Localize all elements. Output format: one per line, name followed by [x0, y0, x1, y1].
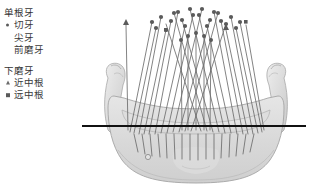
dot-marker-icon — [216, 11, 220, 15]
no-marker-icon — [4, 44, 13, 56]
dot-marker-icon — [229, 15, 233, 19]
triangle-marker-icon — [223, 24, 229, 30]
dot-marker-icon — [150, 20, 154, 24]
dot-marker-icon — [208, 18, 212, 22]
square-marker-icon — [244, 20, 248, 24]
legend-item-label: 远中根 — [14, 89, 44, 102]
dot-marker-icon — [188, 7, 192, 11]
dot-marker-icon — [180, 18, 184, 22]
mental-foramen — [145, 154, 150, 159]
dot-marker-icon — [169, 19, 173, 23]
legend-item-label: 切牙 — [14, 19, 34, 32]
dot-marker-icon — [194, 31, 198, 35]
dot-marker-icon — [202, 34, 206, 38]
dot-marker-icon — [191, 13, 195, 17]
dot-marker-icon — [219, 19, 223, 23]
dot-marker-icon — [238, 20, 242, 24]
root-axis-end-markers — [123, 7, 248, 42]
legend-item-label: 前磨牙 — [14, 44, 44, 57]
dot-marker-icon — [197, 13, 201, 17]
triangle-marker-icon — [4, 77, 13, 89]
dot-marker-icon — [212, 10, 216, 14]
dot-marker-icon — [179, 38, 183, 42]
dot-marker-icon — [176, 10, 180, 14]
dot-marker-icon — [159, 15, 163, 19]
dot-marker-icon — [4, 19, 13, 31]
dot-marker-icon — [205, 24, 209, 28]
dot-marker-icon — [186, 34, 190, 38]
triangle-marker-icon — [123, 19, 129, 25]
square-marker-icon — [164, 28, 168, 32]
no-marker-icon — [4, 32, 13, 44]
dot-marker-icon — [209, 38, 213, 42]
dot-marker-icon — [172, 11, 176, 15]
dot-marker-icon — [200, 7, 204, 11]
mandible-illustration — [78, 0, 314, 191]
dot-marker-icon — [154, 26, 158, 30]
figure-root: 单根牙 切牙 尖牙 前磨牙 下磨牙 近中根 远中根 — [0, 0, 314, 191]
dot-marker-icon — [183, 24, 187, 28]
dot-marker-icon — [234, 26, 238, 30]
legend-item-label: 尖牙 — [14, 32, 34, 45]
square-marker-icon — [4, 89, 13, 101]
legend-item-label: 近中根 — [14, 77, 44, 90]
